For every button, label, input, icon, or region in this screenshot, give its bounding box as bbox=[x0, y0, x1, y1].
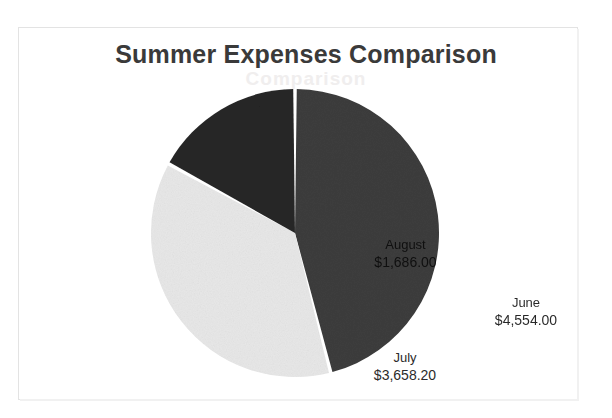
pie-label-august: August $1,686.00 bbox=[348, 236, 463, 272]
scanned-page: Summer Expenses Comparison Comparison bbox=[0, 0, 612, 418]
pie-label-july-name: July bbox=[335, 349, 475, 366]
pie-label-june: June $4,554.00 bbox=[466, 294, 586, 330]
pie-chart-svg bbox=[150, 88, 440, 378]
pie-label-june-value: $4,554.00 bbox=[466, 311, 586, 329]
pie-label-july-value: $3,658.20 bbox=[335, 366, 475, 384]
pie-label-july: July $3,658.20 bbox=[335, 349, 475, 385]
pie-chart: June $4,554.00 July $3,658.20 August $1,… bbox=[150, 88, 440, 378]
page-bleedthrough-text: Comparison bbox=[0, 68, 612, 90]
chart-title: Summer Expenses Comparison bbox=[0, 40, 612, 69]
pie-label-august-name: August bbox=[348, 236, 463, 253]
pie-label-august-value: $1,686.00 bbox=[348, 253, 463, 271]
pie-label-june-name: June bbox=[466, 294, 586, 311]
